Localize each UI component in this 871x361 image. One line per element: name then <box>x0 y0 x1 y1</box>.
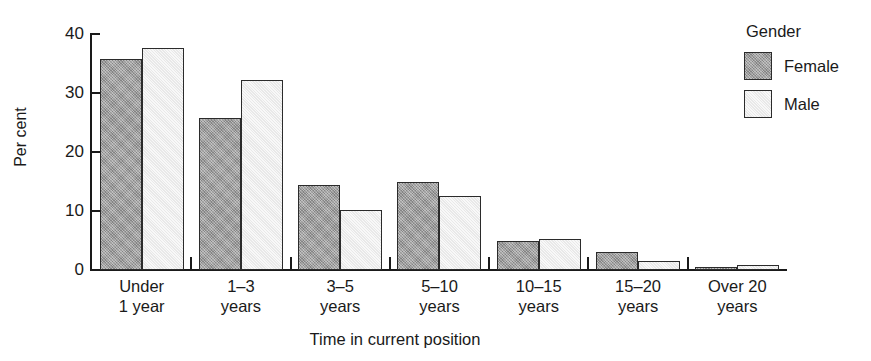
y-axis-tick-label: 30 <box>44 84 84 101</box>
bar-group <box>588 34 687 270</box>
bar-male <box>340 210 382 270</box>
y-axis-tick-label: 10 <box>44 202 84 219</box>
y-axis-title: Per cent <box>12 77 30 197</box>
bar-male <box>439 196 481 270</box>
bar-chart-figure: Per cent 010203040 Under1 year1–3years3–… <box>0 0 871 361</box>
bar-female <box>596 252 638 270</box>
y-axis-tick-label: 20 <box>44 143 84 160</box>
bar-group <box>291 34 390 270</box>
bar-group <box>489 34 588 270</box>
y-axis-tick-label: 0 <box>44 261 84 278</box>
bar-male <box>539 239 581 270</box>
bar-female <box>695 267 737 270</box>
x-axis-category-label: 5–10years <box>390 276 489 316</box>
plot-area <box>92 34 787 270</box>
legend-swatch-male-icon <box>744 90 772 118</box>
legend-label-female: Female <box>784 57 839 76</box>
bar-male <box>638 261 680 270</box>
bar-group <box>191 34 290 270</box>
legend-item-male: Male <box>744 90 871 118</box>
legend-title: Gender <box>744 22 871 41</box>
legend-swatch-female-icon <box>744 52 772 80</box>
bar-female <box>100 59 142 270</box>
bar-male <box>737 265 779 270</box>
bar-group <box>390 34 489 270</box>
x-axis-category-label: 10–15years <box>489 276 588 316</box>
legend: Gender Female Male <box>744 22 871 128</box>
bar-male <box>241 80 283 270</box>
bar-female <box>397 182 439 271</box>
bar-female <box>497 241 539 271</box>
x-axis-category-label: 1–3years <box>191 276 290 316</box>
x-axis-category-label: Over 20years <box>688 276 787 316</box>
bar-group <box>92 34 191 270</box>
y-axis-tick-label: 40 <box>44 25 84 42</box>
bar-female <box>199 118 241 270</box>
x-axis-title: Time in current position <box>0 330 790 349</box>
bar-female <box>298 185 340 270</box>
x-axis-category-label: 15–20years <box>588 276 687 316</box>
legend-item-female: Female <box>744 52 871 80</box>
x-axis-category-label: Under1 year <box>92 276 191 316</box>
legend-label-male: Male <box>784 95 820 114</box>
bar-male <box>142 48 184 270</box>
x-axis-category-label: 3–5years <box>291 276 390 316</box>
